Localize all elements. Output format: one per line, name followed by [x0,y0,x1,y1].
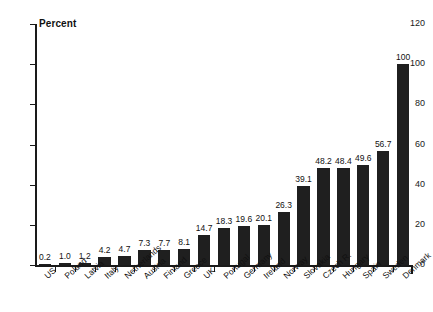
bar [297,186,309,265]
y-tick-label: 120 [399,19,425,28]
bar-value-label: 26.3 [270,201,298,210]
bar-value-label: 8.1 [170,238,198,247]
bar-value-label: 39.1 [290,175,318,184]
y-tick-mark [30,145,35,146]
bar [317,168,329,265]
y-tick-mark [30,225,35,226]
bar-value-label: 49.6 [349,154,377,163]
y-axis-title: Percent [39,18,76,29]
bar [397,64,409,265]
y-tick-mark [30,185,35,186]
bar [357,165,369,265]
y-tick-mark [30,24,35,25]
bar [377,151,389,265]
y-tick-mark [30,104,35,105]
bar-value-label: 56.7 [369,140,397,149]
bar [59,263,71,265]
bar [118,256,130,265]
bar-value-label: 20.1 [250,214,278,223]
bar-value-label: 100 [389,53,417,62]
bar [218,228,230,265]
bar [39,264,51,265]
y-tick-mark [30,64,35,65]
y-axis-line [35,24,37,266]
